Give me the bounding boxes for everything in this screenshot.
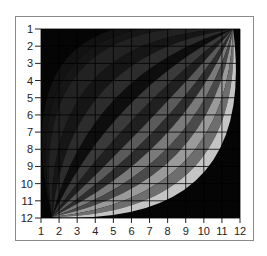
y-tick-label: 3: [27, 57, 33, 69]
x-tick-label: 7: [146, 225, 152, 237]
x-tick-label: 3: [74, 225, 80, 237]
x-tick-label: 11: [216, 225, 227, 237]
y-tick-label: 1: [27, 23, 33, 35]
x-tick-label: 1: [38, 225, 44, 237]
y-axis: 123456789101112: [21, 23, 41, 224]
x-tick-label: 12: [234, 225, 246, 237]
band-plot: 123456789101112 123456789101112: [0, 0, 267, 256]
x-tick-label: 2: [56, 225, 62, 237]
x-axis: 123456789101112: [38, 218, 246, 237]
y-tick-label: 12: [21, 212, 33, 224]
y-tick-label: 2: [27, 40, 33, 52]
y-tick-label: 5: [27, 92, 33, 104]
y-tick-label: 10: [21, 178, 33, 190]
y-tick-label: 6: [27, 109, 33, 121]
y-tick-label: 11: [22, 195, 33, 207]
x-tick-label: 6: [128, 225, 134, 237]
y-tick-label: 8: [27, 143, 33, 155]
x-tick-label: 10: [198, 225, 210, 237]
x-tick-label: 4: [92, 225, 98, 237]
x-tick-label: 8: [165, 225, 171, 237]
y-tick-label: 7: [27, 126, 33, 138]
x-tick-label: 9: [183, 225, 189, 237]
y-tick-label: 9: [27, 160, 33, 172]
plot-area: [41, 22, 240, 218]
x-tick-label: 5: [110, 225, 116, 237]
y-tick-label: 4: [27, 75, 33, 87]
